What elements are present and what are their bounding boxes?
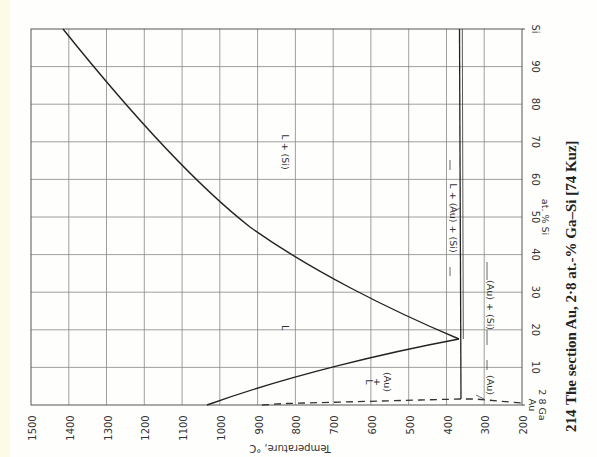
composition-ticks: 10 20 30 40 50 60 70 80 90 Si Au 2 8 Ga …	[527, 24, 551, 420]
svg-text:Si: Si	[530, 24, 541, 33]
svg-text:600: 600	[367, 415, 378, 434]
region-Au: (Au)	[485, 375, 496, 395]
svg-text:400: 400	[443, 415, 454, 434]
svg-text:20: 20	[530, 323, 541, 336]
region-L-Si: L + (Si)	[280, 134, 291, 169]
svg-text:700: 700	[329, 415, 340, 434]
region-Au-Si: (Au) + (Si)	[485, 280, 496, 330]
svg-text:1100: 1100	[178, 415, 189, 440]
temperature-ticks: 1500 1400 1300 1200 1100 1000 900 800 70…	[27, 415, 529, 440]
svg-text:30: 30	[530, 286, 541, 299]
svg-text:2 8 Ga: 2 8 Ga	[537, 389, 548, 420]
solvus-dashed	[262, 399, 522, 405]
svg-text:50: 50	[530, 211, 541, 224]
svg-text:1500: 1500	[27, 415, 38, 440]
svg-text:40: 40	[530, 248, 541, 261]
svg-text:60: 60	[530, 173, 541, 186]
svg-text:1300: 1300	[103, 415, 114, 440]
svg-text:500: 500	[405, 415, 416, 434]
composition-axis-title: at. % Si	[540, 199, 551, 235]
figure-caption: The section Au, 2·8 at.-% Ga–Si [74 Kuz]	[563, 140, 579, 405]
svg-text:1200: 1200	[140, 415, 151, 440]
svg-text:+: +	[372, 378, 383, 386]
svg-text:1400: 1400	[65, 415, 76, 440]
svg-text:70: 70	[530, 135, 541, 148]
svg-text:800: 800	[291, 415, 302, 434]
svg-text:(Au): (Au)	[382, 372, 393, 392]
temperature-axis-title: Temperature, °C	[249, 443, 332, 454]
phase-diagram: 1500 1400 1300 1200 1100 1000 900 800 70…	[0, 0, 597, 457]
svg-text:300: 300	[480, 415, 491, 434]
region-L: L	[280, 325, 291, 331]
svg-text:900: 900	[254, 415, 265, 434]
svg-text:90: 90	[530, 60, 541, 73]
svg-text:10: 10	[530, 361, 541, 374]
svg-text:80: 80	[530, 98, 541, 111]
svg-text:200: 200	[518, 415, 529, 434]
svg-text:Au: Au	[527, 399, 538, 412]
svg-text:1000: 1000	[216, 415, 227, 440]
region-L-Au: L + (Au)	[364, 372, 393, 392]
figure-number: 214	[563, 409, 579, 432]
region-L-Au-Si: L + (Au) + (Si)	[448, 183, 459, 252]
